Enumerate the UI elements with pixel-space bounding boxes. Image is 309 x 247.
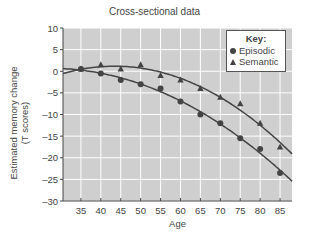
data-point-episodic: [138, 81, 144, 87]
x-tick-label: 35: [76, 205, 87, 216]
x-tick-label: 55: [155, 205, 166, 216]
y-axis-label-line-2: (T scores): [19, 58, 30, 188]
y-axis-label-line-1: Estimated memory change: [8, 58, 19, 188]
data-point-episodic: [98, 70, 104, 76]
x-tick-label: 60: [175, 205, 186, 216]
x-tick-label: 85: [275, 205, 286, 216]
data-point-episodic: [277, 170, 283, 176]
data-point-episodic: [197, 112, 203, 118]
x-tick-label: 50: [135, 205, 146, 216]
x-tick-label: 75: [235, 205, 246, 216]
data-point-episodic: [177, 99, 183, 105]
triangle-marker-icon: [230, 59, 236, 65]
legend-item-episodic: Episodic: [230, 45, 282, 56]
data-point-episodic: [257, 146, 263, 152]
data-point-episodic: [118, 77, 124, 83]
y-tick-label: –20: [42, 152, 58, 163]
x-tick-label: 70: [215, 205, 226, 216]
y-tick-label: 0: [53, 66, 58, 77]
legend: Key: Episodic Semantic: [226, 30, 286, 72]
legend-item-semantic: Semantic: [230, 56, 282, 67]
y-tick-label: –10: [42, 109, 58, 120]
legend-title: Key:: [230, 33, 282, 44]
y-tick-label: 10: [47, 23, 58, 34]
x-tick-label: 40: [96, 205, 107, 216]
y-tick-label: –30: [42, 196, 58, 207]
legend-label: Semantic: [239, 56, 279, 67]
y-tick-label: –5: [47, 87, 58, 98]
y-tick-label: –25: [42, 174, 58, 185]
x-tick-label: 80: [255, 205, 266, 216]
legend-label: Episodic: [239, 45, 275, 56]
data-point-episodic: [217, 120, 223, 126]
x-axis-label: Age: [63, 218, 292, 229]
y-tick-label: –15: [42, 131, 58, 142]
y-axis-label: Estimated memory change (T scores): [8, 58, 30, 188]
data-point-episodic: [158, 86, 164, 92]
x-tick-label: 65: [195, 205, 206, 216]
circle-marker-icon: [230, 48, 236, 54]
y-tick-label: 5: [53, 44, 58, 55]
x-tick-label: 45: [115, 205, 126, 216]
data-point-episodic: [237, 135, 243, 141]
